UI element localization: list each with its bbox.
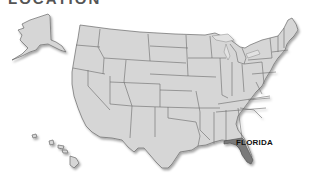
us-map (0, 0, 310, 185)
alaska (12, 14, 66, 60)
highlighted-state-label: FLORIDA (236, 138, 273, 147)
hawaii (32, 134, 79, 168)
